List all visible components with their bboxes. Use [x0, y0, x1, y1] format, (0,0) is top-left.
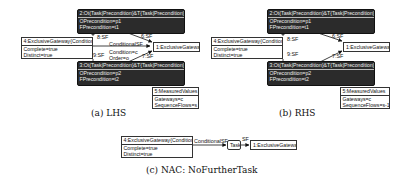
rhs-exclusive-gateway-node: 1:ExclusiveGateway	[343, 42, 390, 52]
nac-task-node: Task	[227, 140, 241, 150]
edge-label: 8:SF	[97, 34, 108, 40]
node-attr: Complete=true	[122, 145, 192, 152]
node-title: 5:MeasuredValues	[153, 88, 198, 96]
edge-label: 6:SF	[332, 33, 343, 39]
node-title: Task	[230, 142, 241, 148]
node-attr: FPrecondition=t2	[268, 76, 374, 83]
lhs-exclusive-gateway-condition-node: 4:ExclusiveGateway{Condition} Complete=t…	[21, 37, 93, 59]
node-attr: Gateways=c	[153, 96, 198, 103]
edge-label: ConditionalSF	[194, 138, 228, 144]
edge-label: 7:SF	[142, 53, 153, 59]
node-attr: Distinct=true	[212, 52, 282, 59]
rhs-task-node-top: 2:Ot{Task|Precondition}&T{Task|Precondit…	[267, 9, 375, 34]
edge-label: 7:SF	[332, 53, 343, 59]
node-title: 3:Ot{Task|Precondition}&T{Task|Precondit…	[78, 62, 184, 70]
node-attr: OPrecondition=p1	[78, 18, 184, 25]
node-title: 2:Ot{Task|Precondition}&T{Task|Precondit…	[268, 10, 374, 18]
edge-label: 8:SF	[287, 36, 298, 42]
node-attr: FPrecondition=t1	[268, 24, 374, 31]
lhs-exclusive-gateway-node: 1:ExclusiveGateway	[153, 42, 200, 52]
node-attr: FPrecondition=t1	[78, 24, 184, 31]
lhs-measured-values-node: 5:MeasuredValues Gateways=c SequenceFlow…	[152, 87, 199, 109]
node-attr: Distinct=true	[122, 151, 192, 158]
node-title: 4:ExclusiveGateway{Condition}	[22, 38, 92, 46]
node-attr: SequenceFlows=s	[153, 102, 198, 109]
node-title: 2:Ot{Task|Precondition}&T{Task|Precondit…	[78, 10, 184, 18]
nac-exclusive-gateway-node: 1:ExclusiveGateway	[250, 140, 297, 150]
edge-label: ConditionalSF	[109, 41, 143, 47]
node-attr: OPrecondition=p2	[268, 70, 374, 77]
node-attr: Complete=true	[22, 46, 92, 53]
rhs-exclusive-gateway-condition-node: 4:ExclusiveGateway{Condition} Complete=t…	[211, 37, 283, 59]
caption-nac: (c) NAC: NoFurtherTask	[146, 165, 258, 175]
node-attr: OPrecondition=p1	[268, 18, 374, 25]
node-title: 1:ExclusiveGateway	[346, 44, 390, 50]
node-title: 4:ExclusiveGateway{Condition}	[122, 137, 192, 145]
node-title: 1:ExclusiveGateway	[156, 44, 200, 50]
node-attr: OPrecondition=p2	[78, 70, 184, 77]
lhs-task-node-top: 2:Ot{Task|Precondition}&T{Task|Precondit…	[77, 9, 185, 34]
lhs-task-node-bottom: 3:Ot{Task|Precondition}&T{Task|Precondit…	[77, 61, 185, 86]
node-attr: SequenceFlows=s-1	[341, 102, 389, 109]
node-attr: Complete=true	[212, 46, 282, 53]
edge-label: SF	[242, 136, 249, 142]
edge-label: 9:SF	[93, 52, 104, 58]
rhs-task-node-bottom: 3:Ot{Task|Precondition}&T{Task|Precondit…	[267, 61, 375, 86]
node-title: 1:ExclusiveGateway	[253, 142, 297, 148]
caption-lhs: (a) LHS	[91, 108, 126, 118]
node-title: 3:Ot{Task|Precondition}&T{Task|Precondit…	[268, 62, 374, 70]
edge-label: 6:SF	[141, 33, 152, 39]
node-attr: Distinct=true	[22, 52, 92, 59]
node-attr: Gateways=c	[341, 96, 389, 103]
node-title: 4:ExclusiveGateway{Condition}	[212, 38, 282, 46]
edge-label: 9:SF	[287, 51, 298, 57]
node-attr: FPrecondition=t2	[78, 76, 184, 83]
node-title: 5:MeasuredValues	[341, 88, 389, 96]
nac-exclusive-gateway-condition-node: 4:ExclusiveGateway{Condition} Complete=t…	[121, 136, 193, 158]
caption-rhs: (b) RHS	[279, 108, 315, 118]
rhs-measured-values-node: 5:MeasuredValues Gateways=c SequenceFlow…	[340, 87, 390, 109]
edge-label: Order=o	[109, 55, 129, 61]
